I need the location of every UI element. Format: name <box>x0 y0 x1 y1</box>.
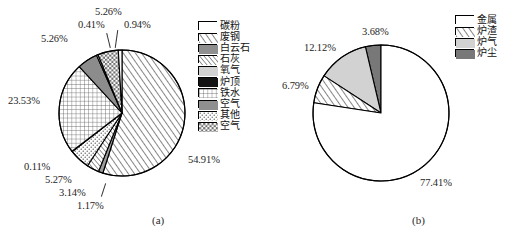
pct-label-碳粉: 0.94% <box>124 19 151 30</box>
legend-swatch-icon <box>198 100 217 109</box>
legend-swatch-icon <box>198 88 217 97</box>
legend-swatch-icon <box>198 44 217 53</box>
legend-panel-b: 金属炉渣炉气炉尘 <box>455 14 497 59</box>
legend-item-金属[interactable]: 金属 <box>455 14 497 25</box>
legend-item-炉顶[interactable]: 炉顶 <box>198 76 250 87</box>
legend-swatch-icon <box>455 15 474 24</box>
pct-label-空气: 5.26% <box>95 6 122 17</box>
legend-item-炉气[interactable]: 炉气 <box>455 36 497 47</box>
pct-label-炉顶: 0.11% <box>24 161 50 172</box>
legend-swatch-icon <box>198 77 217 86</box>
legend-label: 氧气 <box>220 65 240 75</box>
pct-label-石灰: 3.14% <box>59 187 86 198</box>
legend-label: 炉顶 <box>220 77 240 87</box>
pie-chart-panel-a: 碳粉废钢白云石石灰氧气炉顶铁水空气其他空气 54.91%1.17%3.14%5.… <box>0 0 260 238</box>
pct-label-废钢: 54.91% <box>188 154 220 165</box>
legend-item-废钢[interactable]: 废钢 <box>198 31 250 42</box>
legend-item-炉尘[interactable]: 炉尘 <box>455 48 497 59</box>
pct-label-氧气: 0.41% <box>78 19 105 30</box>
legend-item-氧气[interactable]: 氧气 <box>198 65 250 76</box>
legend-swatch-icon <box>198 33 217 42</box>
legend-label: 废钢 <box>220 32 240 42</box>
legend-swatch-icon <box>455 38 474 47</box>
figure-root: 碳粉废钢白云石石灰氧气炉顶铁水空气其他空气 54.91%1.17%3.14%5.… <box>0 0 520 238</box>
legend-label: 炉气 <box>477 37 497 47</box>
legend-swatch-icon <box>198 122 217 131</box>
legend-item-铁水[interactable]: 铁水 <box>198 87 250 98</box>
pct-label-其他: 5.27% <box>45 174 72 185</box>
legend-item-空气[interactable]: 空气 <box>198 98 250 109</box>
legend-swatch-icon <box>455 27 474 36</box>
legend-item-空气[interactable]: 空气 <box>198 121 250 132</box>
caption-a: (a) <box>152 214 164 226</box>
pie-chart-panel-b: 金属炉渣炉气炉尘 3.68%12.12%6.79%77.41% <box>260 0 520 238</box>
legend-panel-a: 碳粉废钢白云石石灰氧气炉顶铁水空气其他空气 <box>198 20 250 132</box>
legend-item-白云石[interactable]: 白云石 <box>198 42 250 53</box>
legend-label: 空气 <box>220 121 240 131</box>
legend-swatch-icon <box>198 55 217 64</box>
caption-b: (b) <box>412 214 425 226</box>
pct-label-炉渣: 6.79% <box>282 80 309 91</box>
legend-item-碳粉[interactable]: 碳粉 <box>198 20 250 31</box>
legend-item-其他[interactable]: 其他 <box>198 110 250 121</box>
legend-swatch-icon <box>198 21 217 30</box>
legend-label: 白云石 <box>220 43 250 53</box>
legend-label: 碳粉 <box>220 21 240 31</box>
legend-swatch-icon <box>198 111 217 120</box>
pct-label-炉尘: 3.68% <box>362 26 389 37</box>
legend-label: 石灰 <box>220 54 240 64</box>
pct-label-炉气: 12.12% <box>304 42 336 53</box>
legend-label: 炉尘 <box>477 48 497 58</box>
legend-label: 空气 <box>220 99 240 109</box>
pct-label-铁水: 23.53% <box>8 95 40 106</box>
pct-label-空气: 1.17% <box>77 200 104 211</box>
pct-label-金属: 77.41% <box>420 177 452 188</box>
legend-label: 金属 <box>477 15 497 25</box>
legend-label: 铁水 <box>220 88 240 98</box>
legend-swatch-icon <box>455 49 474 58</box>
legend-item-炉渣[interactable]: 炉渣 <box>455 25 497 36</box>
legend-swatch-icon <box>198 66 217 75</box>
pct-label-白云石: 5.26% <box>41 33 68 44</box>
legend-label: 炉渣 <box>477 26 497 36</box>
legend-label: 其他 <box>220 110 240 120</box>
